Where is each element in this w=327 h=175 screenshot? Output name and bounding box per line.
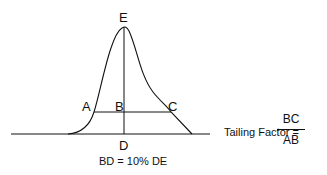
fraction-denominator: AB — [276, 133, 306, 147]
point-label-a: A — [82, 100, 91, 113]
point-label-b: B — [115, 100, 124, 113]
peak-curve — [68, 27, 192, 134]
fraction-bar — [277, 129, 305, 130]
tailing-factor-fraction: BC AB — [276, 112, 306, 147]
point-label-e: E — [119, 11, 128, 24]
chromatogram-peak-diagram — [0, 0, 327, 175]
point-label-d: D — [119, 139, 128, 152]
caption-bd-de: BD = 10% DE — [99, 156, 167, 167]
fraction-numerator: BC — [276, 112, 306, 126]
point-label-c: C — [168, 100, 177, 113]
